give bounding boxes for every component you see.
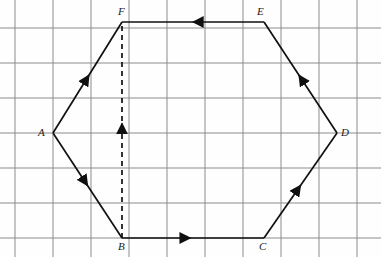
vertex-label-b: B	[118, 241, 125, 252]
figure-canvas: A B C D E F	[0, 0, 381, 257]
hexagon-edges	[53, 22, 337, 238]
arrowhead-de	[299, 75, 304, 83]
vertex-label-e: E	[257, 6, 264, 17]
vertex-label-a: A	[38, 127, 45, 138]
hexagon-vector-diagram	[0, 0, 381, 257]
graph-paper-grid	[0, 0, 381, 257]
vertex-label-f: F	[118, 6, 125, 17]
arrowhead-ab	[83, 178, 88, 186]
edge-direction-arrows	[83, 22, 304, 238]
arrowhead-af	[84, 75, 89, 83]
arrowhead-cd	[295, 186, 300, 193]
vertex-label-c: C	[259, 241, 266, 252]
vertex-label-d: D	[341, 127, 349, 138]
